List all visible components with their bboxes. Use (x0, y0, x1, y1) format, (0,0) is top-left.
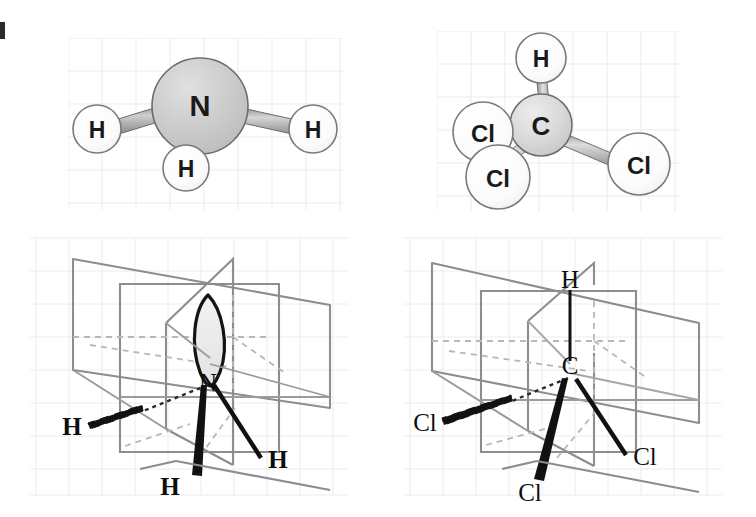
atom-label-carbon: C (562, 352, 579, 379)
atom-label-hydrogen-right: H (268, 446, 288, 473)
atom-label-hydrogen-left: H (62, 413, 82, 440)
atom-label-hydrogen-left: H (89, 117, 106, 143)
panel-chloroform-ball-and-stick: C H Cl Cl Cl (437, 31, 680, 215)
atom-label-chlorine-right: Cl (633, 443, 657, 470)
atom-hydrogen-top: H (516, 33, 566, 83)
atom-label-hydrogen-top: H (533, 46, 550, 72)
atom-label-hydrogen-front: H (160, 473, 180, 500)
atom-label-carbon: C (532, 111, 551, 141)
panel-ammonia-ball-and-stick: N H H H (68, 38, 343, 213)
atom-label-hydrogen-top: H (561, 266, 579, 293)
bond-n-h-front-wedge (192, 385, 207, 476)
mirror-plane-front-rect (481, 291, 636, 452)
atom-label-nitrogen: N (190, 90, 211, 122)
atom-label-chlorine-right: Cl (627, 152, 651, 179)
atom-label-chlorine-front: Cl (518, 479, 542, 505)
chloroform-planes-svg: C H Cl Cl Cl (404, 233, 722, 505)
atom-label-hydrogen-bottom: H (178, 156, 195, 182)
figure-number-edge-mark: 4 (0, 22, 5, 39)
atom-hydrogen-right: H (289, 105, 337, 153)
figure-root: 4 (0, 0, 756, 517)
panel-chloroform-mirror-planes: C H Cl Cl Cl (404, 233, 722, 505)
plane-edges-light (528, 321, 699, 400)
atom-label-hydrogen-right: H (305, 117, 322, 143)
panel-grid (30, 238, 348, 495)
atom-label-chlorine-left: Cl (413, 409, 437, 436)
atom-hydrogen-bottom: H (163, 145, 209, 191)
atom-label-chlorine-lower-left: Cl (486, 165, 510, 192)
ammonia-model-svg: N H H H (68, 38, 343, 213)
ammonia-planes-svg: N H H H (30, 233, 348, 505)
atom-nitrogen: N (152, 58, 248, 154)
atom-label-nitrogen: N (199, 369, 217, 396)
atom-carbon: C (510, 94, 572, 156)
atom-hydrogen-left: H (73, 105, 121, 153)
bond-c-cl-right (576, 379, 626, 455)
atom-label-chlorine-left: Cl (471, 120, 495, 147)
atom-chlorine-lower-left: Cl (466, 145, 530, 209)
panel-ammonia-mirror-planes: N H H H (30, 233, 348, 505)
chloroform-model-svg: C H Cl Cl Cl (437, 31, 680, 215)
atom-chlorine-right: Cl (608, 133, 670, 195)
